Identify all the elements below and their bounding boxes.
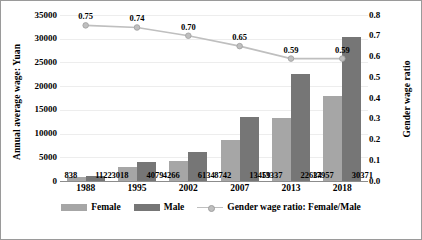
bar-male[interactable]: 1122	[86, 176, 105, 181]
bar-label-female: 3018	[111, 171, 128, 180]
bar-groups: 8381122301840794266613487421345913337226…	[60, 15, 368, 181]
bar-male[interactable]: 4079	[137, 162, 156, 181]
bar-female[interactable]: 838	[67, 177, 86, 181]
x-axis-labels: 198819952002200720132018	[60, 183, 368, 193]
bar-label-female: 13337	[261, 171, 282, 180]
y-tick-left: 10000	[15, 129, 57, 138]
bar-label-female: 17957	[313, 171, 334, 180]
y-tick-right: 0.8	[369, 11, 399, 20]
bar-label-male: 30371	[352, 171, 373, 180]
y-tick-left: 25000	[15, 58, 57, 67]
bar-female[interactable]: 4266	[169, 161, 188, 181]
y-tick-left: 15000	[15, 105, 57, 114]
bar-label-male: 6134	[198, 171, 215, 180]
chart-figure: Annual average wage: Yuan Gender wage ra…	[0, 0, 422, 240]
bar-female[interactable]: 17957	[323, 96, 342, 181]
y-tick-right: 0.7	[369, 31, 399, 40]
x-axis-label: 2013	[265, 183, 316, 193]
y-tick-right: 0.4	[369, 94, 399, 103]
bar-group: 30184079	[111, 15, 162, 181]
x-axis-label: 1995	[111, 183, 162, 193]
bar-male[interactable]: 13459	[240, 117, 259, 181]
legend-swatch-male-icon	[134, 204, 160, 211]
legend-label-male: Male	[164, 202, 185, 212]
bar-female[interactable]: 3018	[118, 167, 137, 181]
legend-swatch-female-icon	[61, 204, 87, 211]
y-tick-left: 0	[15, 177, 57, 186]
x-axis-label: 2018	[317, 183, 368, 193]
y-tick-right: 0.2	[369, 135, 399, 144]
y-tick-right: 0.1	[369, 156, 399, 165]
y-tick-right: 0.6	[369, 52, 399, 61]
legend-swatch-line-icon	[197, 203, 223, 212]
plot-area: 8381122301840794266613487421345913337226…	[60, 15, 368, 181]
legend-label-female: Female	[91, 202, 121, 212]
bar-label-female: 4266	[163, 171, 180, 180]
bar-group: 42666134	[163, 15, 214, 181]
bar-male[interactable]: 22634	[291, 74, 310, 181]
bar-male[interactable]: 30371	[342, 37, 361, 181]
bar-female[interactable]: 13337	[272, 118, 291, 181]
y-axis-right-title: Gender wage ratio	[402, 44, 412, 154]
bar-label-male: 1122	[95, 171, 112, 180]
y-tick-right: 0.0	[369, 177, 399, 186]
legend-item-female: Female	[61, 202, 121, 212]
x-axis-label: 2007	[214, 183, 265, 193]
y-tick-left: 35000	[15, 11, 57, 20]
y-tick-left: 5000	[15, 153, 57, 162]
y-tick-right: 0.5	[369, 73, 399, 82]
bar-label-female: 838	[64, 171, 77, 180]
bar-label-female: 8742	[214, 171, 231, 180]
bar-label-male: 4079	[146, 171, 163, 180]
bar-female[interactable]: 8742	[221, 140, 240, 181]
chart-legend: Female Male Gender wage ratio: Female/Ma…	[1, 202, 421, 212]
bar-group: 8381122	[60, 15, 111, 181]
legend-item-male: Male	[134, 202, 185, 212]
legend-label-ratio: Gender wage ratio: Female/Male	[227, 202, 361, 212]
x-axis-label: 1988	[60, 183, 111, 193]
y-tick-left: 20000	[15, 82, 57, 91]
gridline	[60, 181, 368, 182]
x-axis-label: 2002	[163, 183, 214, 193]
bar-group: 1795730371	[317, 15, 368, 181]
y-tick-right: 0.3	[369, 114, 399, 123]
y-tick-left: 30000	[15, 34, 57, 43]
bar-male[interactable]: 6134	[188, 152, 207, 181]
bar-group: 1333722634	[265, 15, 316, 181]
bar-group: 874213459	[214, 15, 265, 181]
legend-item-ratio: Gender wage ratio: Female/Male	[197, 202, 361, 212]
